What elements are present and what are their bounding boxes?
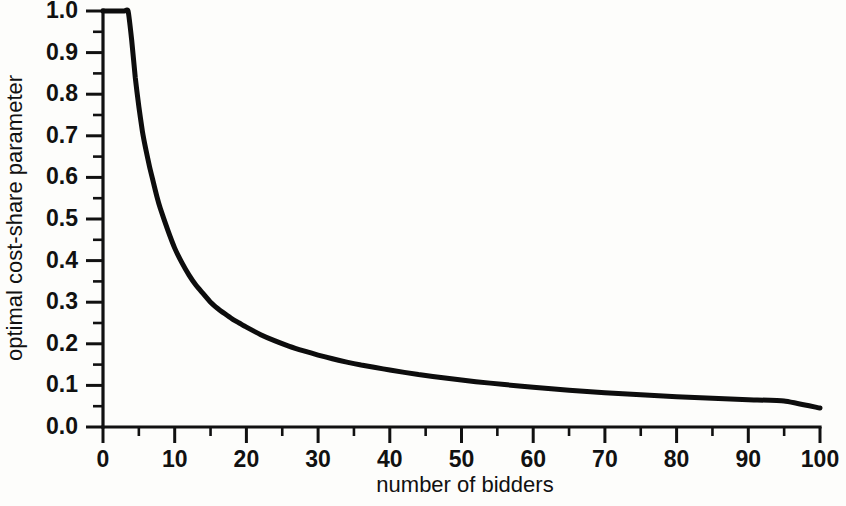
- x-tick-label: 40: [377, 446, 403, 472]
- y-tick-label: 0.5: [46, 205, 78, 231]
- y-tick-label: 0.2: [46, 330, 78, 356]
- x-tick-label: 70: [592, 446, 618, 472]
- y-tick-label: 0.1: [46, 371, 78, 397]
- x-tick-label: 60: [520, 446, 546, 472]
- line-chart: 0.00.10.20.30.40.50.60.70.80.91.00102030…: [0, 0, 846, 506]
- x-tick-label: 30: [305, 446, 331, 472]
- y-tick-label: 0.9: [46, 39, 78, 65]
- y-tick-label: 0.0: [46, 413, 78, 439]
- x-tick-label: 0: [97, 446, 110, 472]
- y-tick-label: 0.6: [46, 163, 78, 189]
- data-series-curve: [103, 10, 820, 408]
- chart-figure: 0.00.10.20.30.40.50.60.70.80.91.00102030…: [0, 0, 846, 506]
- y-tick-label: 1.0: [46, 0, 78, 23]
- y-axis-title: optimal cost-share parameter: [2, 75, 27, 361]
- x-tick-label: 10: [162, 446, 188, 472]
- x-tick-label: 50: [449, 446, 475, 472]
- y-tick-label: 0.8: [46, 80, 78, 106]
- axes: [103, 10, 820, 427]
- x-tick-label: 20: [234, 446, 260, 472]
- x-tick-label: 80: [664, 446, 690, 472]
- y-tick-label: 0.4: [46, 247, 78, 273]
- y-tick-label: 0.3: [46, 288, 78, 314]
- x-tick-label: 100: [801, 446, 839, 472]
- y-tick-label: 0.7: [46, 122, 78, 148]
- data-curve-line: [103, 10, 820, 408]
- x-axis-title: number of bidders: [376, 472, 553, 497]
- x-tick-label: 90: [736, 446, 762, 472]
